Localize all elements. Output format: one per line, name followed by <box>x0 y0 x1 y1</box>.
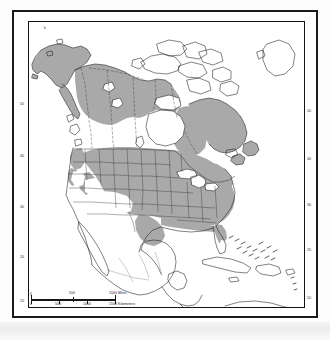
scale-bar: 0 500 1000 Miles 0 500 1000 1500 Kilomet… <box>31 291 133 311</box>
corner-annotation-mark: b <box>44 27 46 30</box>
scale-label-km-1000: 1000 <box>83 303 91 307</box>
lat-label-right-20: 20 <box>307 249 311 253</box>
scale-label-km-1500: 1500 Kilometers <box>109 303 135 307</box>
lat-label-right-40: 40 <box>307 158 311 162</box>
scale-bar-rule-kilometers <box>31 300 115 301</box>
scanned-page: 50 40 30 20 10 50 40 30 20 10 <box>0 0 330 340</box>
scan-artifact-band-upper <box>0 322 330 336</box>
lat-label-left-10: 10 <box>20 300 24 304</box>
lat-label-right-50: 50 <box>307 110 311 114</box>
scale-label-km-0: 0 <box>30 303 32 307</box>
scale-label-miles-500: 500 <box>69 292 75 296</box>
scan-artifact-band-lower <box>0 336 330 340</box>
lat-label-left-50: 50 <box>20 103 24 107</box>
lat-label-left-20: 20 <box>20 256 24 260</box>
lat-label-right-10: 10 <box>307 297 311 301</box>
scale-label-miles-1000: 1000 Miles <box>109 292 126 296</box>
lat-label-left-40: 40 <box>20 155 24 159</box>
north-america-map[interactable] <box>29 22 305 308</box>
lat-label-right-30: 30 <box>307 204 311 208</box>
map-neatline-frame[interactable] <box>28 21 305 308</box>
lat-label-left-30: 30 <box>20 206 24 210</box>
scale-label-km-500: 500 <box>55 303 61 307</box>
scale-label-miles-0: 0 <box>30 293 32 297</box>
distribution-shading-layer <box>32 43 259 246</box>
